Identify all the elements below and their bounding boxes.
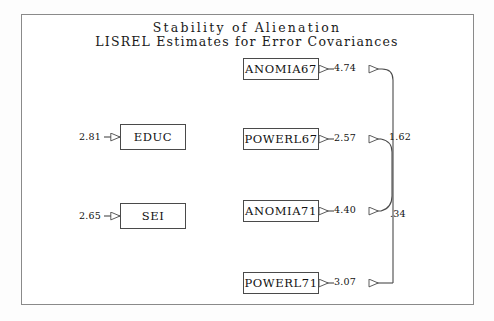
coef-sei: 2.65 bbox=[79, 210, 101, 221]
coef-covariance-inner: .34 bbox=[390, 208, 406, 219]
coef-covariance-outer: 1.62 bbox=[389, 131, 411, 142]
connector-covariance-outer bbox=[369, 69, 393, 283]
coef-anomia67: 4.74 bbox=[334, 62, 356, 73]
node-anomia67[interactable]: ANOMIA67 bbox=[243, 58, 319, 80]
connector-covariance-inner bbox=[369, 139, 392, 211]
coef-powerl71: 3.07 bbox=[334, 276, 356, 287]
coef-educ: 2.81 bbox=[79, 131, 101, 142]
coef-powerl67: 2.57 bbox=[334, 132, 356, 143]
node-powerl67[interactable]: POWERL67 bbox=[243, 128, 319, 150]
node-educ[interactable]: EDUC bbox=[120, 124, 186, 150]
node-powerl71[interactable]: POWERL71 bbox=[243, 272, 319, 294]
node-anomia71[interactable]: ANOMIA71 bbox=[243, 200, 319, 222]
diagram-canvas: Stability of Alienation LISREL Estimates… bbox=[0, 0, 494, 321]
coef-anomia71: 4.40 bbox=[334, 204, 356, 215]
node-sei[interactable]: SEI bbox=[120, 203, 186, 229]
